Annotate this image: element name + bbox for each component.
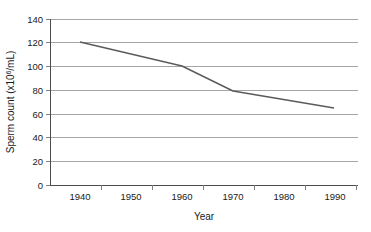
y-tick-label: 140 xyxy=(27,14,43,25)
y-tick-label: 0 xyxy=(38,180,43,191)
y-axis-ticks xyxy=(46,19,50,185)
y-tick-label: 20 xyxy=(32,156,43,167)
chart-canvas: 140 120 100 80 60 40 20 0 1940 1950 1960… xyxy=(0,0,371,232)
x-axis-title: Year xyxy=(194,211,215,222)
x-tick-label: 1980 xyxy=(273,191,294,202)
x-tick-label: 1940 xyxy=(69,191,90,202)
x-tick-label: 1970 xyxy=(222,191,243,202)
data-series-sperm-count xyxy=(80,42,334,108)
x-tick-label: 1990 xyxy=(324,191,345,202)
y-axis-tick-labels: 140 120 100 80 60 40 20 0 xyxy=(27,14,43,191)
y-tick-label: 60 xyxy=(32,109,43,120)
y-tick-label: 40 xyxy=(32,132,43,143)
y-tick-label: 120 xyxy=(27,37,43,48)
y-tick-label: 80 xyxy=(32,85,43,96)
y-axis-title-prefix: Sperm count (x10 xyxy=(5,74,16,153)
y-axis-title-suffix: /mL) xyxy=(5,51,16,71)
svg-text:Sperm count (x106/mL): Sperm count (x106/mL) xyxy=(5,51,17,154)
y-axis-title: Sperm count (x106/mL) xyxy=(5,51,17,154)
line-chart: 140 120 100 80 60 40 20 0 1940 1950 1960… xyxy=(0,0,371,232)
gridlines-y xyxy=(50,19,358,161)
x-axis-tick-labels: 1940 1950 1960 1970 1980 1990 xyxy=(69,191,345,202)
x-tick-label: 1960 xyxy=(171,191,192,202)
x-tick-label: 1950 xyxy=(120,191,141,202)
x-axis-ticks xyxy=(101,185,356,190)
y-tick-label: 100 xyxy=(27,61,43,72)
